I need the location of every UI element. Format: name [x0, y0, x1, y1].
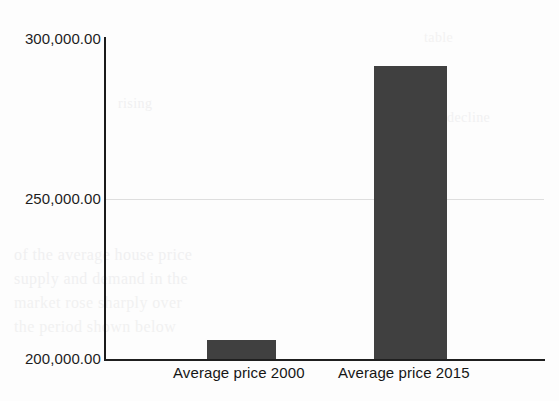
bar-series	[106, 37, 545, 359]
x-axis-line	[104, 359, 545, 361]
bar-chart: rising decline of the average house pric…	[0, 0, 559, 401]
bar-average-price-2000	[207, 340, 276, 359]
bar-average-price-2015	[374, 66, 447, 359]
y-tick-label-250000: 250,000.00	[1, 190, 101, 207]
x-tick-label-average-price-2000: Average price 2000	[173, 364, 305, 381]
x-tick-label-average-price-2015: Average price 2015	[338, 364, 470, 381]
y-axis-tick-labels: 300,000.00 250,000.00 200,000.00	[0, 0, 101, 401]
y-tick-label-300000: 300,000.00	[1, 30, 101, 47]
y-tick-label-200000: 200,000.00	[1, 350, 101, 367]
